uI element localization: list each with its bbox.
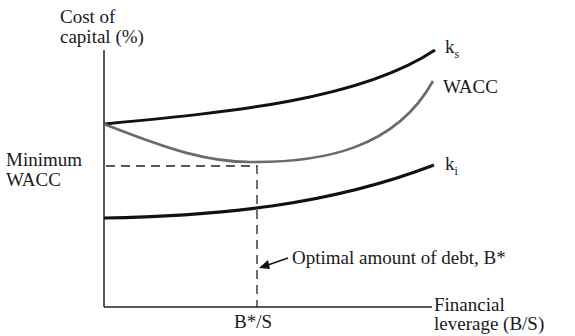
wacc-curve bbox=[104, 81, 433, 162]
x-axis-label-1: Financial bbox=[434, 295, 505, 314]
optimal-debt-label: Optimal amount of debt, B* bbox=[292, 248, 506, 267]
wacc-label: WACC bbox=[443, 77, 498, 96]
ki-curve bbox=[104, 165, 434, 218]
x-axis-label-2: leverage (B/S) bbox=[434, 314, 544, 333]
ks-label: ks bbox=[445, 37, 459, 64]
min-wacc-label-2: WACC bbox=[6, 170, 61, 189]
ks-curve bbox=[104, 50, 435, 124]
min-wacc-guide bbox=[106, 166, 257, 307]
ki-label: ki bbox=[445, 154, 458, 181]
chart-canvas bbox=[0, 0, 575, 336]
arrowhead-icon bbox=[259, 260, 270, 269]
b-star-label: B*/S bbox=[234, 312, 272, 331]
y-axis-label-1: Cost of bbox=[60, 7, 115, 26]
min-wacc-label-1: Minimum bbox=[6, 150, 82, 169]
y-axis-label-2: capital (%) bbox=[60, 27, 144, 46]
